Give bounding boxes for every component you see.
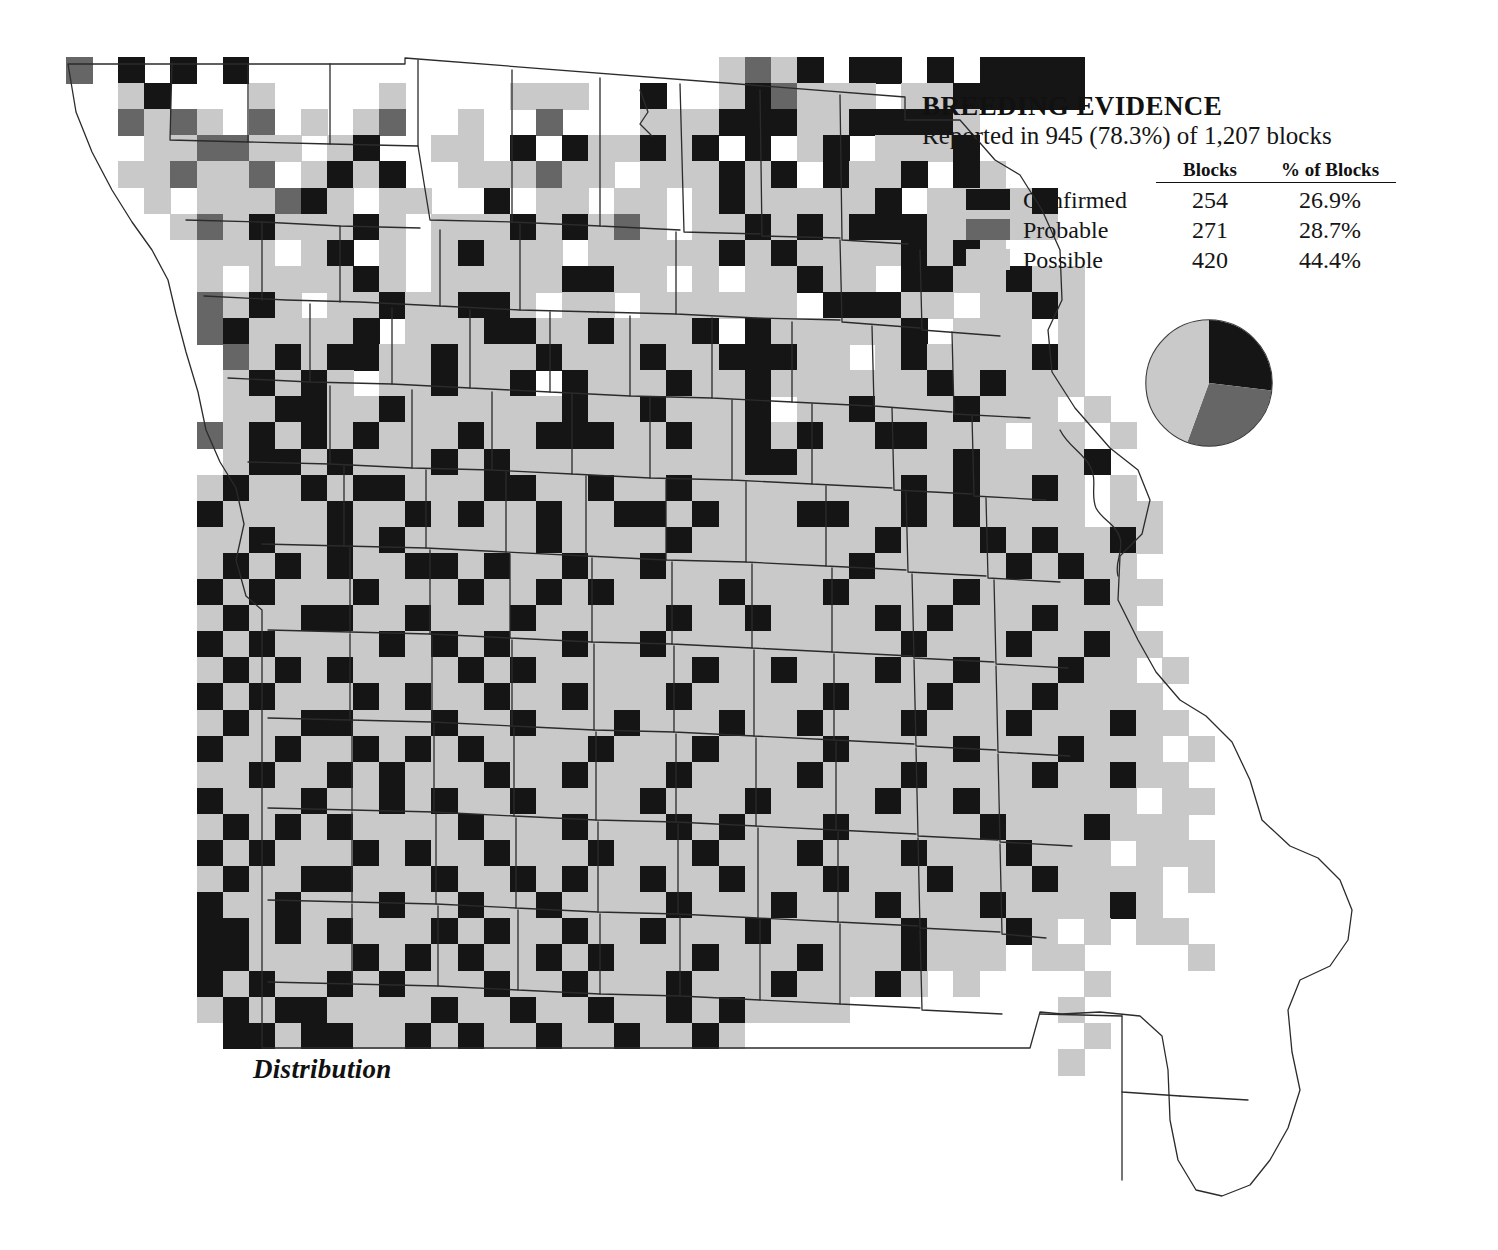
map-cell (1058, 631, 1085, 658)
map-cell (771, 527, 798, 554)
map-cell (953, 318, 980, 345)
map-cell (536, 188, 563, 215)
map-cell (379, 866, 406, 893)
map-cell (458, 971, 485, 998)
map-cell (275, 396, 302, 423)
map-cell (249, 501, 276, 528)
map-cell (405, 553, 432, 580)
legend-blocks-possible: 420 (1156, 245, 1264, 275)
map-cell (301, 840, 328, 867)
legend-percent-probable: 28.7% (1264, 215, 1396, 245)
map-cell (1136, 736, 1163, 763)
map-cell (1058, 318, 1085, 345)
map-cell (379, 814, 406, 841)
map-cell (223, 188, 250, 215)
map-cell (901, 762, 928, 789)
map-cell (771, 553, 798, 580)
map-cell (901, 605, 928, 632)
map-cell (510, 866, 537, 893)
map-cell (745, 344, 772, 371)
map-cell (719, 292, 746, 319)
map-cell (458, 918, 485, 945)
map-cell (1006, 449, 1033, 476)
map-cell (980, 683, 1007, 710)
map-cell (405, 422, 432, 449)
map-cell (405, 527, 432, 554)
map-cell (275, 449, 302, 476)
pie-slice-confirmed (1209, 320, 1272, 391)
map-cell (379, 266, 406, 293)
map-cell (745, 449, 772, 476)
map-cell (327, 422, 354, 449)
map-cell (562, 788, 589, 815)
map-cell (588, 892, 615, 919)
map-cell (980, 396, 1007, 423)
map-cell (719, 344, 746, 371)
map-cell (1032, 579, 1059, 606)
map-cell (536, 892, 563, 919)
map-cell (275, 736, 302, 763)
map-cell (431, 135, 458, 162)
map-cell (562, 918, 589, 945)
map-cell (666, 553, 693, 580)
map-cell (510, 553, 537, 580)
map-cell (1006, 344, 1033, 371)
map-cell (1084, 631, 1111, 658)
map-cell (1188, 944, 1215, 971)
map-cell (745, 788, 772, 815)
map-cell (458, 579, 485, 606)
map-cell (1032, 814, 1059, 841)
map-cell (301, 788, 328, 815)
map-cell (458, 449, 485, 476)
map-cell (771, 240, 798, 267)
map-cell (353, 161, 380, 188)
legend-percent-confirmed: 26.9% (1264, 185, 1396, 215)
map-cell (745, 188, 772, 215)
map-cell (745, 109, 772, 136)
map-cell (797, 370, 824, 397)
map-cell (588, 944, 615, 971)
map-cell (771, 161, 798, 188)
map-cell (719, 788, 746, 815)
map-cell (771, 710, 798, 737)
map-cell (692, 918, 719, 945)
map-cell (771, 579, 798, 606)
map-cell (510, 683, 537, 710)
legend-header-blocks-label: Blocks (1183, 159, 1237, 180)
map-cell (901, 892, 928, 919)
map-cell (771, 971, 798, 998)
map-cell (823, 109, 850, 136)
map-cell (953, 501, 980, 528)
map-cell (458, 683, 485, 710)
map-cell (1110, 579, 1137, 606)
map-cell (719, 161, 746, 188)
map-cell (797, 814, 824, 841)
map-cell (405, 736, 432, 763)
map-cell (797, 762, 824, 789)
map-cell (405, 710, 432, 737)
map-cell (197, 866, 224, 893)
map-cell (197, 109, 224, 136)
map-cell (301, 683, 328, 710)
map-cell (510, 501, 537, 528)
map-cell (1058, 475, 1085, 502)
map-cell (223, 788, 250, 815)
map-cell (510, 605, 537, 632)
map-cell (980, 866, 1007, 893)
map-cell (536, 997, 563, 1024)
map-cell (1058, 57, 1085, 84)
map-cell (1162, 710, 1189, 737)
map-cell (953, 788, 980, 815)
map-cell (353, 553, 380, 580)
map-cell (405, 344, 432, 371)
map-cell (640, 736, 667, 763)
map-cell (823, 866, 850, 893)
map-cell (353, 266, 380, 293)
map-cell (719, 370, 746, 397)
map-cell (510, 527, 537, 554)
map-cell (1162, 918, 1189, 945)
map-cell (327, 866, 354, 893)
legend-panel: BREEDING EVIDENCE Reported in 945 (78.3%… (922, 92, 1422, 275)
map-cell (405, 449, 432, 476)
map-cell (771, 370, 798, 397)
